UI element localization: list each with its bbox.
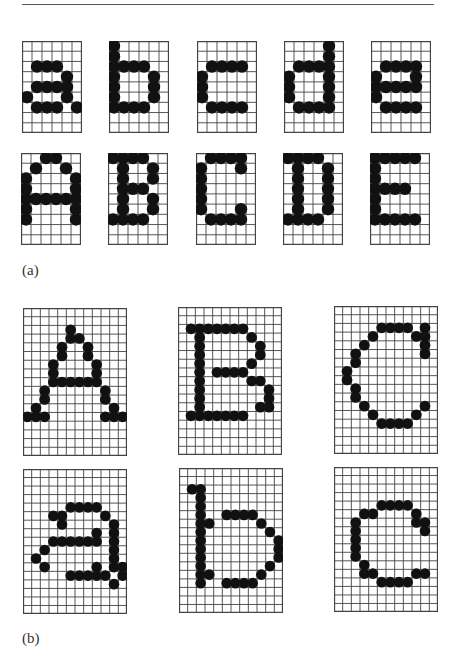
grid-b-upper-a (23, 308, 127, 456)
grid-b-lower-c (334, 467, 438, 612)
grid-b-lower-a (23, 469, 127, 614)
grid-a-upper-e (370, 153, 430, 245)
section-b-label: (b) (22, 630, 40, 647)
grid-a-upper-b (108, 153, 168, 245)
grid-b-upper-b (178, 307, 282, 455)
grid-a-lower-c (197, 41, 257, 133)
grid-a-upper-a (21, 153, 81, 245)
grid-a-lower-d (284, 41, 344, 133)
grid-b-upper-c (334, 306, 438, 454)
top-rule (22, 4, 434, 5)
section-a-label: (a) (22, 262, 39, 279)
grid-b-lower-b (179, 468, 283, 613)
grid-a-lower-b (109, 41, 169, 133)
grid-a-lower-a (22, 41, 82, 133)
grid-a-upper-d (283, 153, 343, 245)
grid-a-upper-c (196, 153, 256, 245)
grid-a-lower-e (371, 41, 431, 133)
